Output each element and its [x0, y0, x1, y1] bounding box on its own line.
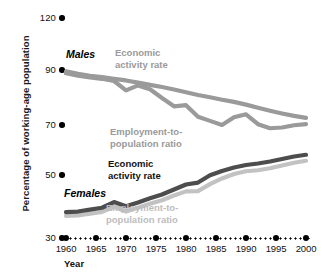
- x-tick-marker: [123, 235, 129, 241]
- annotation-line-1: Employment-to-: [110, 126, 182, 138]
- annotation-line-1: Economic: [115, 47, 168, 59]
- annotation-line-2: population ratio: [106, 214, 178, 226]
- annotation-line-1: Employment-to-: [106, 202, 178, 214]
- annotation-line-2: activity rate: [115, 59, 168, 71]
- x-tick-marker: [153, 235, 159, 241]
- x-tick-label: 2000: [286, 243, 322, 254]
- x-tick-marker: [303, 235, 309, 241]
- series-line: [66, 155, 306, 212]
- x-tick-marker: [63, 235, 69, 241]
- annotation-males-group: Males: [66, 48, 95, 60]
- annotation-line-1: Economic: [108, 158, 161, 170]
- series-line: [66, 71, 306, 117]
- annotation-females-economic-activity-rate: Economic activity rate: [108, 158, 161, 181]
- x-tick-marker: [183, 235, 189, 241]
- x-tick-marker: [93, 235, 99, 241]
- x-tick-marker: [213, 235, 219, 241]
- annotation-females-group: Females: [64, 187, 106, 199]
- x-axis-title: Year: [64, 258, 84, 269]
- annotation-line-2: population ratio: [110, 138, 182, 150]
- annotation-males-economic-activity-rate: Economic activity rate: [115, 47, 168, 70]
- annotation-females-employment-to-population-ratio: Employment-to- population ratio: [106, 202, 178, 225]
- annotation-line-2: activity rate: [108, 170, 161, 182]
- x-tick-marker: [243, 235, 249, 241]
- series-line: [66, 73, 306, 128]
- x-tick-marker: [273, 235, 279, 241]
- chart-container: Percentage of working-age population 120…: [0, 0, 322, 277]
- annotation-males-employment-to-population-ratio: Employment-to- population ratio: [110, 126, 182, 149]
